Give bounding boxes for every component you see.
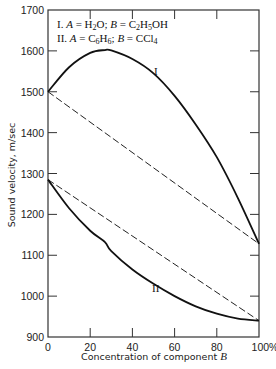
legend-line-2: II. A = C6H6; B = CCl4	[57, 32, 158, 46]
y-tick-label: 1100	[21, 249, 44, 261]
y-tick-label: 1200	[21, 208, 45, 220]
y-tick-label: 1400	[21, 127, 45, 139]
curve-label-II: II	[152, 282, 160, 294]
y-tick-label: 1300	[21, 168, 45, 180]
x-tick-label: 100%	[252, 341, 276, 353]
legend-line-1: I. A = H2O; B = C2H5OH	[57, 18, 168, 32]
curve-I	[48, 50, 259, 244]
y-tick-label: 1500	[21, 86, 45, 98]
data-curves	[48, 50, 259, 321]
y-tick-label: 1600	[21, 45, 45, 57]
y-tick-label: 900	[26, 331, 44, 343]
y-axis-title: Sound velocity, m/sec	[6, 123, 17, 228]
x-axis-title: Concentration of component B	[81, 350, 227, 362]
tick-labels: 9001000110012001300140015001600170002040…	[21, 4, 276, 353]
x-tick-label: 0	[45, 341, 51, 353]
curve-label-I: I	[154, 65, 158, 77]
y-tick-label: 1000	[21, 290, 45, 302]
legend: I. A = H2O; B = C2H5OH II. A = C6H6; B =…	[57, 18, 168, 46]
y-tick-label: 1700	[21, 4, 45, 16]
dashed-line-II	[48, 180, 259, 321]
sound-velocity-chart: 9001000110012001300140015001600170002040…	[0, 0, 276, 369]
